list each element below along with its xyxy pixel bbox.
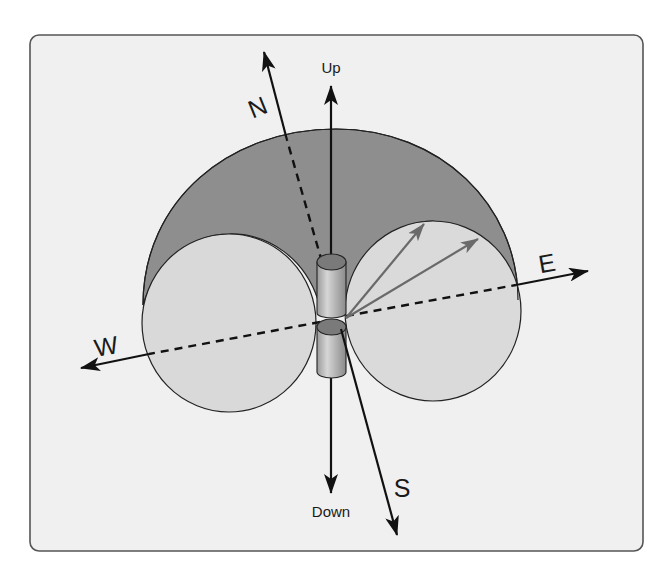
left-lobe: [142, 234, 316, 412]
label-south: S: [394, 474, 411, 502]
label-down: Down: [312, 503, 350, 520]
right-lobe: [345, 221, 521, 401]
diagram-stage: Up Down N S E W: [0, 0, 669, 577]
label-up: Up: [321, 59, 340, 76]
antenna: [317, 254, 346, 378]
